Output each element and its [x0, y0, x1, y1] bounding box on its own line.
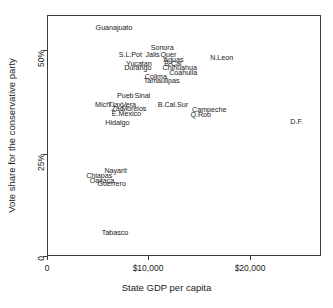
data-point-label: Hidalgo	[105, 119, 129, 127]
x-tick-mark-10000	[148, 256, 149, 260]
data-point-label: Guerrero	[97, 180, 125, 188]
x-tick-mark-20000	[250, 256, 251, 260]
data-point-label: Durango	[124, 64, 151, 72]
data-point-label: Tamaulipas	[144, 77, 180, 85]
data-point-label: B.Cal.Sur	[158, 101, 188, 109]
data-point-label: Tabasco	[102, 229, 128, 237]
data-point-label: N.Leon	[210, 54, 233, 62]
data-point-label: Sinal	[134, 92, 150, 100]
x-axis-title: State GDP per capita	[0, 282, 333, 293]
y-tick-label-50: 50%	[36, 50, 46, 67]
scatter-plot-figure: Vote share for the conservative party 50…	[0, 0, 333, 308]
y-tick-label-25: 25%	[36, 154, 46, 171]
y-axis-title: Vote share for the conservative party	[4, 0, 18, 270]
data-point-label: D.F.	[290, 118, 303, 126]
x-tick-label-10000: $10,000	[133, 263, 164, 273]
y-axis-title-text: Vote share for the conservative party	[6, 58, 17, 213]
plot-area: GuanajuatoSonoraS.L.PotJalisQuerAguasN.L…	[47, 15, 321, 256]
x-tick-label-20000: $20,000	[235, 263, 266, 273]
data-point-label: Pueb	[117, 92, 134, 100]
data-point-label: E.Mexico	[112, 110, 141, 118]
x-tick-label-0: 0	[45, 263, 50, 273]
data-point-label: Guanajuato	[96, 24, 133, 32]
x-tick-mark-0	[47, 256, 48, 260]
data-point-label: Q.Roo	[190, 111, 211, 119]
